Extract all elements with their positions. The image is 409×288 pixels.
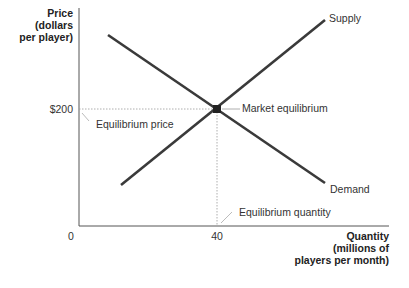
x-axis-label-line3: players per month) (294, 254, 389, 266)
equilibrium-price-leader (82, 113, 89, 121)
origin-label: 0 (68, 230, 74, 242)
equilibrium-point (213, 105, 221, 113)
y-axis-label-line3: per player) (19, 31, 73, 43)
y-axis-label-line1: Price (47, 7, 73, 19)
x-axis-label-line1: Quantity (346, 230, 389, 242)
demand-label: Demand (330, 183, 370, 195)
equilibrium-quantity-label: Equilibrium quantity (239, 206, 331, 218)
equilibrium-quantity-leader (221, 212, 232, 223)
market-equilibrium-label: Market equilibrium (242, 102, 328, 114)
y-tick-200: $200 (50, 103, 74, 115)
supply-demand-chart: Price (dollars per player) $200 0 40 Qua… (0, 0, 409, 288)
x-tick-40: 40 (211, 230, 223, 242)
x-axis-label-line2: (millions of (333, 242, 390, 254)
equilibrium-price-label: Equilibrium price (96, 118, 174, 130)
y-axis-label-line2: (dollars (35, 19, 73, 31)
supply-label: Supply (329, 12, 362, 24)
